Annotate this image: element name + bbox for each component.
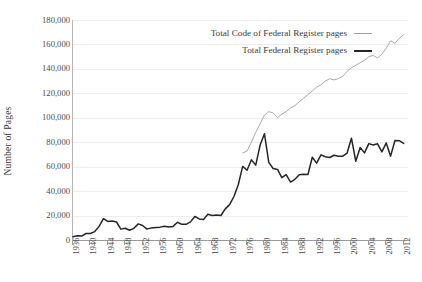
legend-item: Total Federal Register pages xyxy=(242,43,372,58)
x-tick-label: 1996 xyxy=(333,229,343,263)
legend-label: Total Federal Register pages xyxy=(242,43,347,58)
x-tick-label: 1948 xyxy=(124,229,134,263)
y-tick-label: 60,000 xyxy=(14,162,70,171)
y-tick-label: 180,000 xyxy=(14,16,70,25)
x-tick-label: 1988 xyxy=(298,229,308,263)
chart-legend: Total Code of Federal Register pagesTota… xyxy=(150,26,372,60)
legend-line-swatch xyxy=(354,33,372,34)
x-tick-label: 1992 xyxy=(316,229,326,263)
x-tick-label: 1944 xyxy=(107,229,117,263)
x-tick-label: 1964 xyxy=(194,229,204,263)
x-tick-label: 1936 xyxy=(72,229,82,263)
y-tick-label: 140,000 xyxy=(14,64,70,73)
legend-label: Total Code of Federal Register pages xyxy=(211,26,347,41)
y-tick-label: 160,000 xyxy=(14,40,70,49)
x-tick-label: 1940 xyxy=(89,229,99,263)
y-tick-label: 120,000 xyxy=(14,89,70,98)
x-tick-label: 1972 xyxy=(229,229,239,263)
x-tick-label: 1976 xyxy=(246,229,256,263)
x-tick-label: 1960 xyxy=(176,229,186,263)
y-tick-label: 20,000 xyxy=(14,211,70,220)
y-tick-label: 40,000 xyxy=(14,187,70,196)
y-axis-tick-labels: 020,00040,00060,00080,000100,000120,0001… xyxy=(14,0,70,282)
x-tick-label: 2012 xyxy=(403,229,413,263)
x-tick-label: 1952 xyxy=(142,229,152,263)
x-tick-label: 1956 xyxy=(159,229,169,263)
x-tick-label: 1984 xyxy=(281,229,291,263)
x-tick-label: 2000 xyxy=(350,229,360,263)
x-axis-tick-labels: 1936194019441948195219561960196419681972… xyxy=(72,246,407,282)
y-tick-label: 100,000 xyxy=(14,113,70,122)
x-tick-label: 2004 xyxy=(368,229,378,263)
legend-item: Total Code of Federal Register pages xyxy=(211,26,372,41)
x-tick-label: 1968 xyxy=(211,229,221,263)
y-tick-label: 80,000 xyxy=(14,138,70,147)
series-line xyxy=(73,134,404,237)
x-tick-label: 2008 xyxy=(385,229,395,263)
x-tick-label: 1980 xyxy=(263,229,273,263)
chart-container: Number of Pages 020,00040,00060,00080,00… xyxy=(0,0,422,282)
y-tick-label: 0 xyxy=(14,236,70,245)
legend-line-swatch xyxy=(354,50,372,52)
